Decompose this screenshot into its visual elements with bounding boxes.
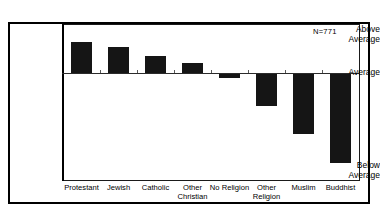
bar-other-christian — [182, 63, 203, 73]
y-axis-line — [62, 24, 64, 181]
bar-muslim — [293, 74, 314, 134]
zero-baseline — [62, 73, 360, 74]
bar-protestant — [71, 42, 92, 73]
bar-no-religion — [219, 74, 240, 78]
sample-size-annotation: N=771 — [313, 27, 337, 36]
y-tick-label-below-average: Below Average — [324, 161, 380, 180]
x-tick-label-buddhist: Buddhist — [318, 184, 363, 193]
zero-tick-mark — [137, 70, 138, 73]
zero-tick-mark — [174, 70, 175, 73]
bar-jewish — [108, 47, 129, 73]
zero-tick-mark — [100, 70, 101, 73]
bar-other-religion — [256, 74, 277, 106]
zero-tick-mark — [322, 70, 323, 73]
zero-tick-mark — [285, 70, 286, 73]
bar-buddhist — [330, 74, 351, 163]
plot-area-border — [62, 24, 360, 181]
zero-tick-mark — [211, 70, 212, 73]
zero-tick-mark — [248, 70, 249, 73]
figure-container: Above Average Average Below Average N=77… — [0, 0, 380, 221]
bar-catholic — [145, 56, 166, 73]
